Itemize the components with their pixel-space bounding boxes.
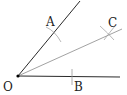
ray-ob (18, 76, 120, 77)
label-o: O (3, 80, 13, 94)
diagram-canvas: A C B O (0, 0, 127, 95)
label-c: C (108, 16, 117, 30)
ray-oc-bisector (18, 29, 122, 76)
point-o (16, 74, 19, 77)
label-b: B (74, 80, 83, 94)
ray-oa (18, 1, 80, 76)
label-a: A (45, 15, 55, 29)
